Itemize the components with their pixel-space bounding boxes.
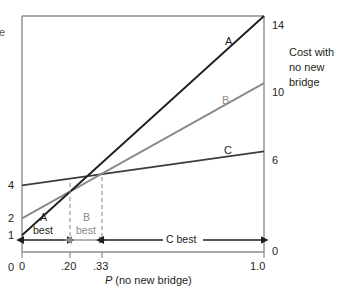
series-label-b: B	[222, 95, 229, 106]
series-label-a: A	[225, 36, 232, 47]
series-line-a	[22, 16, 264, 235]
series-label-c: C	[224, 145, 232, 156]
series-line-c	[22, 151, 264, 185]
y-right-tick-0: 0	[272, 246, 278, 257]
y-left-tick-2: 2	[8, 213, 14, 224]
side-note: Cost with no new bridge	[289, 45, 334, 90]
side-note-line-2: no new	[289, 60, 334, 75]
x-axis-title: P(no new bridge)	[105, 275, 192, 286]
chart-container: e 4 2 1 0 14 10 6 0 0 .20 .33 1.0 P(no n…	[0, 0, 342, 289]
x-tick-label-100: 1.0	[250, 261, 265, 272]
clipped-left-text: e	[0, 27, 5, 38]
y-left-tick-1: 1	[8, 230, 14, 241]
x-tick-label-33: .33	[93, 261, 108, 272]
side-note-line-1: Cost with	[289, 45, 334, 60]
region-b-best-line2: best	[76, 225, 96, 236]
x-tick-label-0: 0	[19, 261, 25, 272]
region-b-best-line1: B	[83, 212, 90, 223]
y-right-tick-10: 10	[272, 87, 284, 98]
chart-svg	[0, 0, 342, 289]
region-a-best-line1: A	[40, 212, 47, 223]
x-axis-title-rest: (no new bridge)	[115, 274, 191, 286]
region-c-best: C best	[166, 234, 196, 245]
region-a-best-line2: best	[33, 225, 53, 236]
y-right-tick-14: 14	[272, 20, 284, 31]
side-note-line-3: bridge	[289, 75, 334, 90]
x-axis-title-symbol: P	[105, 274, 112, 286]
y-left-tick-0: 0	[8, 262, 14, 273]
x-tick-label-20: .20	[61, 261, 76, 272]
y-right-tick-6: 6	[272, 155, 278, 166]
y-left-tick-4: 4	[8, 180, 14, 191]
